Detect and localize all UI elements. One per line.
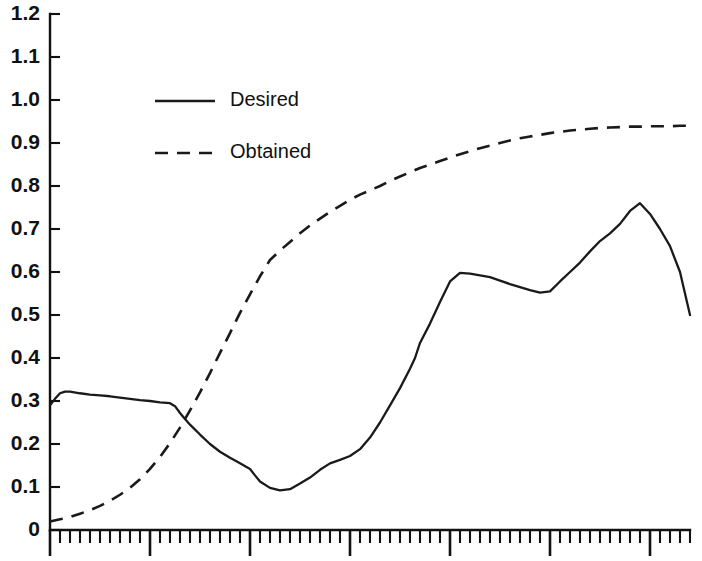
y-axis-tick-marks — [50, 14, 60, 530]
y-axis-tick-label: 0.5 — [11, 302, 41, 325]
y-axis-tick-label: 0.1 — [11, 474, 41, 497]
series-line-obtained — [50, 126, 690, 522]
series-line-desired — [50, 203, 690, 490]
y-axis-tick-label: 0.6 — [11, 259, 40, 282]
y-axis-tick-label: 0 — [28, 517, 40, 540]
y-axis-tick-label: 0.3 — [11, 388, 40, 411]
y-axis-tick-label: 0.7 — [11, 216, 40, 239]
y-axis-tick-label: 0.4 — [11, 345, 41, 368]
y-axis-tick-label: 1.2 — [11, 1, 40, 24]
y-axis-tick-labels: 00.10.20.30.40.50.60.70.80.91.01.11.2 — [11, 1, 41, 540]
legend-label-obtained: Obtained — [230, 140, 311, 162]
chart-legend: Desired Obtained — [155, 88, 311, 162]
y-axis-tick-label: 1.0 — [11, 87, 40, 110]
y-axis-tick-label: 0.2 — [11, 431, 40, 454]
y-axis-tick-label: 0.9 — [11, 130, 40, 153]
chart-figure: 00.10.20.30.40.50.60.70.80.91.01.11.2 De… — [0, 0, 702, 561]
line-chart: 00.10.20.30.40.50.60.70.80.91.01.11.2 De… — [0, 0, 702, 561]
y-axis-tick-label: 1.1 — [11, 44, 41, 67]
x-axis-tick-marks — [50, 530, 690, 556]
legend-label-desired: Desired — [230, 88, 299, 110]
y-axis-tick-label: 0.8 — [11, 173, 41, 196]
